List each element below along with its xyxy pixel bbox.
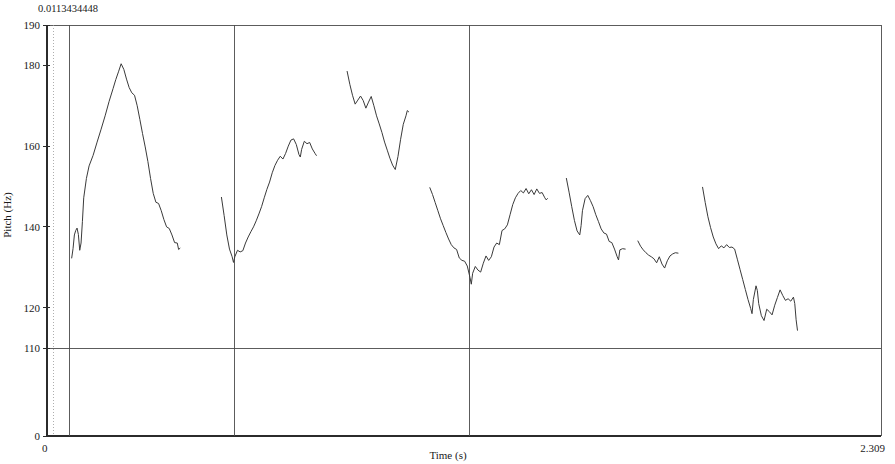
plot-frame — [47, 25, 881, 436]
pitch-contour-figure: 1901801601401201100 02.309 0.0113434448 … — [0, 0, 895, 464]
pitch-contour-nao-2 — [638, 241, 678, 268]
pitch-contour-nno-rise — [221, 139, 316, 263]
x-tick-label: 0 — [42, 442, 48, 454]
praat-pitch-plot: 1901801601401201100 02.309 0.0113434448 … — [0, 0, 895, 464]
pitch-contour-series — [72, 64, 798, 330]
x-tick-label: 2.309 — [860, 442, 885, 454]
pitch-contour-nno-high — [347, 71, 408, 169]
y-tick-label: 120 — [24, 302, 41, 314]
x-axis-title: Time (s) — [429, 449, 467, 462]
pitch-contour-nno-fall — [430, 188, 548, 284]
pitch-contour-nao-final — [703, 187, 798, 330]
y-axis-tick-labels: 1901801601401201100 — [24, 19, 41, 442]
corner-annotation-value: 0.0113434448 — [38, 3, 98, 14]
pitch-contour-nao-1 — [566, 178, 625, 260]
y-tick-label: 160 — [24, 140, 41, 152]
y-tick-label: 180 — [24, 59, 41, 71]
y-tick-label: 0 — [35, 430, 41, 442]
pitch-contour-aruaku — [72, 64, 180, 258]
y-tick-label: 140 — [24, 221, 41, 233]
y-tick-label: 110 — [24, 342, 41, 354]
y-axis-title: Pitch (Hz) — [1, 192, 14, 238]
y-tick-label: 190 — [24, 19, 41, 31]
